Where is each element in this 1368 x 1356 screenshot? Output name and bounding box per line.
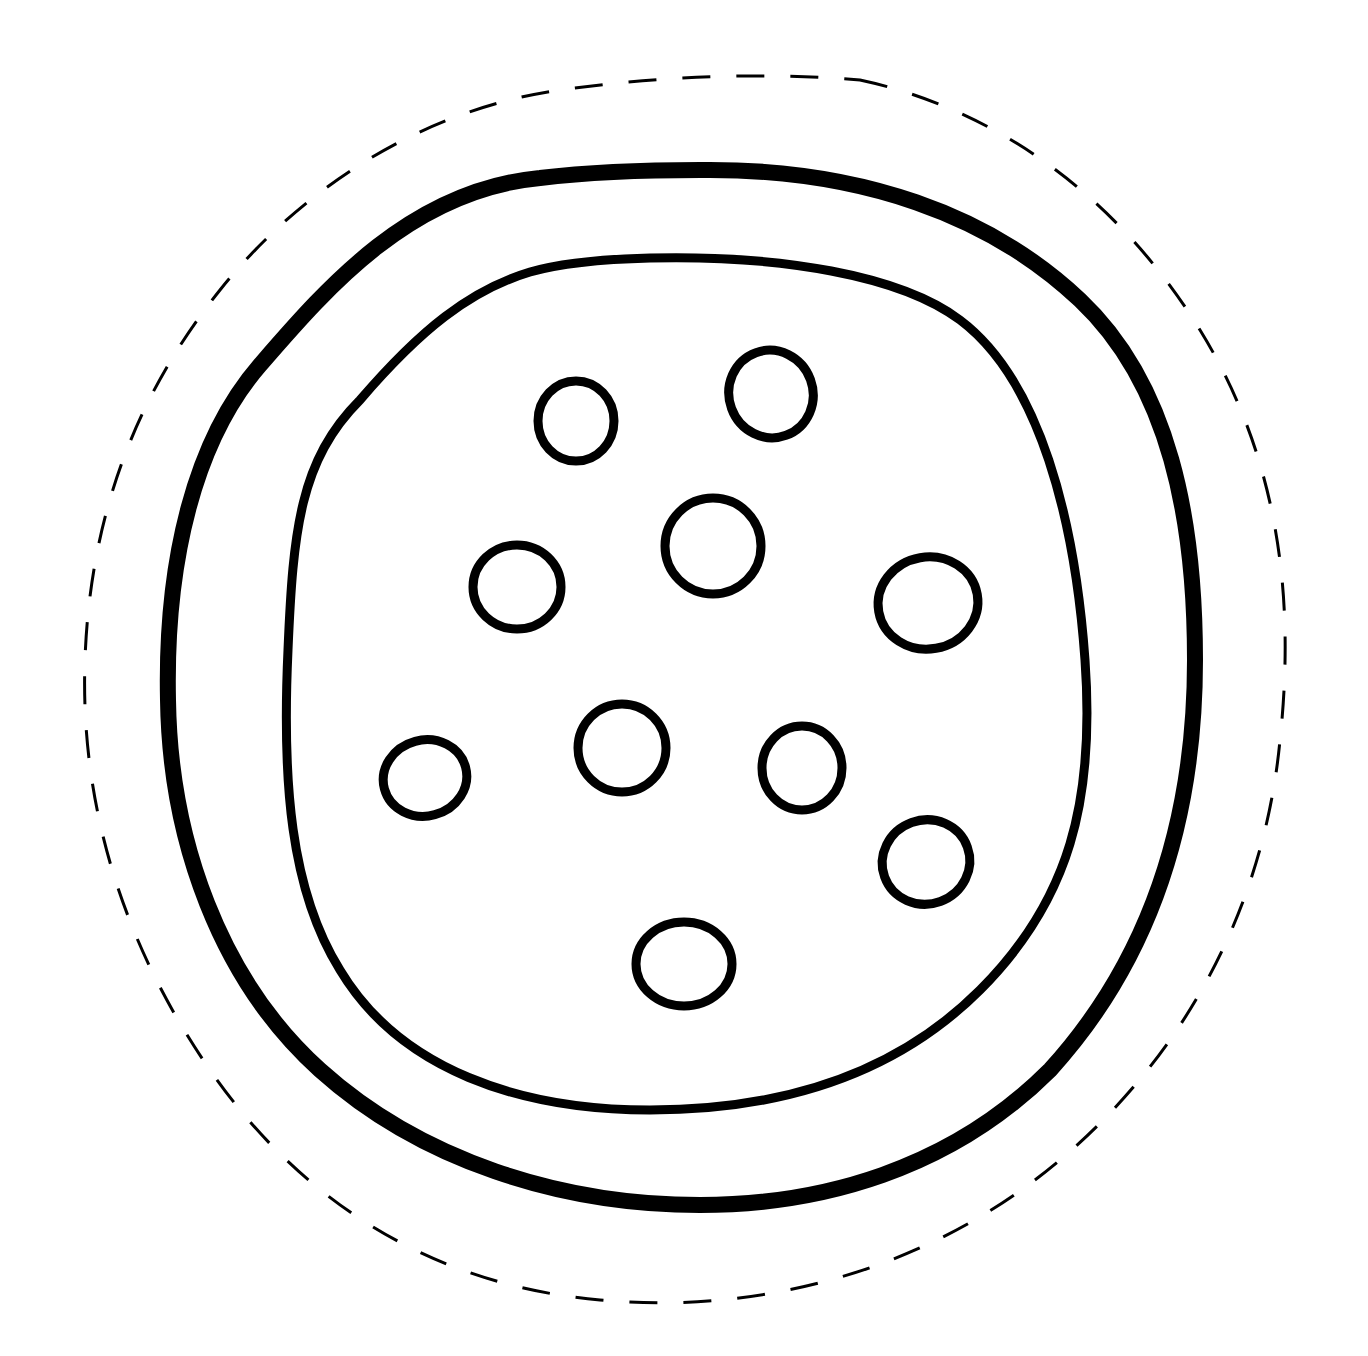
- background: [0, 0, 1368, 1356]
- pizza-drawing: [0, 0, 1368, 1356]
